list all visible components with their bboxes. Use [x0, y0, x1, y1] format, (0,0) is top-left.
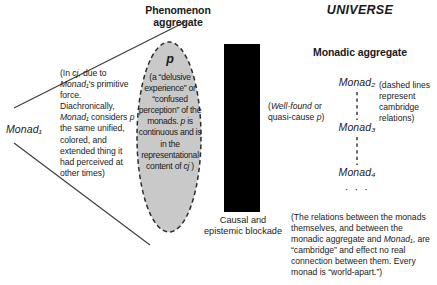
monadic-aggregate-heading: Monadic aggregate — [300, 46, 420, 58]
monad1-explanatory-note: (In cj, due to Monad₁'s primitive force.… — [60, 68, 138, 179]
quasi-cause-note: (Well-found or quasi-cause p) — [268, 101, 336, 123]
monad1-label: Monad₁ — [6, 123, 66, 135]
p-symbol-label: p — [135, 52, 205, 67]
cambridge-relations-note: (The relations between the monads themse… — [291, 212, 433, 279]
phenomenon-description-text: (a “delusive experience” or “confused pe… — [135, 72, 205, 172]
monad-chain-ellipsis: · · · — [326, 183, 388, 195]
universe-heading: UNIVERSE — [300, 4, 420, 16]
monad4-node: Monad₄ — [326, 166, 388, 178]
phenomenon-aggregate-heading-line1: Phenomenon — [128, 4, 228, 16]
dashed-lines-legend-note: (dashed lines represent cambridge relati… — [379, 80, 437, 124]
causal-epistemic-blockade-caption: Causal and epistemic blockade — [203, 215, 283, 238]
phenomenon-ellipse-content: p (a “delusive experience” or “confused … — [135, 52, 205, 172]
phenomenon-aggregate-heading: Phenomenon aggregate — [128, 4, 228, 28]
leibniz-phenomenon-monad-diagram: Phenomenon aggregate UNIVERSE Monadic ag… — [0, 0, 437, 285]
causal-epistemic-blockade-bar — [224, 44, 260, 212]
phenomenon-aggregate-heading-line2: aggregate — [128, 16, 228, 28]
